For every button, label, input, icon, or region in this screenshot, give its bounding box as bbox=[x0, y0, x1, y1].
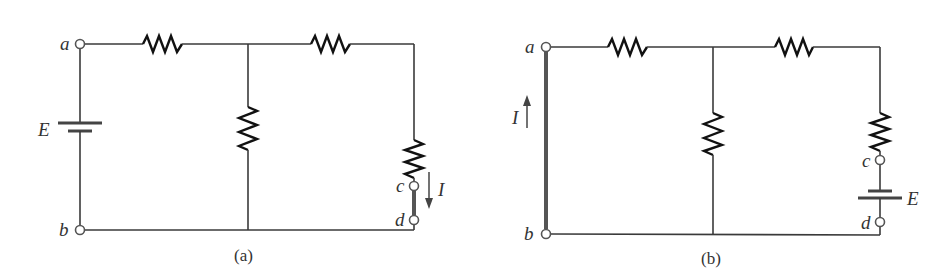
resistor-icon bbox=[871, 113, 889, 151]
terminal-c bbox=[410, 182, 419, 191]
label-source-e: E bbox=[37, 119, 50, 140]
terminal-d bbox=[410, 216, 419, 225]
label-source-e: E bbox=[906, 188, 919, 209]
resistor-icon bbox=[775, 39, 813, 55]
caption-b: (b) bbox=[701, 249, 721, 268]
resistor-icon bbox=[405, 140, 423, 178]
label-d: d bbox=[861, 212, 871, 233]
circuit-figure: a b c d E I (a) bbox=[0, 0, 948, 278]
resistor-icon bbox=[239, 107, 257, 150]
label-c: c bbox=[862, 150, 871, 171]
label-d: d bbox=[395, 209, 405, 230]
label-b: b bbox=[59, 219, 69, 240]
panel-a: a b c d E I (a) bbox=[37, 33, 446, 265]
label-current-i: I bbox=[437, 179, 446, 200]
caption-a: (a) bbox=[234, 246, 253, 265]
resistor-icon bbox=[311, 36, 350, 52]
label-b: b bbox=[524, 223, 534, 244]
panel-b: a b c d E I (b) bbox=[511, 36, 919, 268]
resistor-icon bbox=[608, 39, 647, 55]
arrowhead-up-icon bbox=[523, 95, 531, 106]
terminal-a bbox=[76, 40, 85, 49]
wire-bottom bbox=[551, 234, 880, 235]
label-a: a bbox=[60, 33, 70, 54]
label-a: a bbox=[525, 36, 535, 57]
label-c: c bbox=[396, 175, 405, 196]
terminal-c bbox=[876, 156, 885, 165]
arrowhead-down-icon bbox=[425, 198, 433, 209]
label-current-i: I bbox=[511, 107, 520, 128]
terminal-d bbox=[876, 218, 885, 227]
terminal-b bbox=[76, 226, 85, 235]
resistor-icon bbox=[143, 36, 182, 52]
resistor-icon bbox=[704, 113, 722, 155]
terminal-a bbox=[542, 43, 551, 52]
terminal-b bbox=[542, 230, 551, 239]
